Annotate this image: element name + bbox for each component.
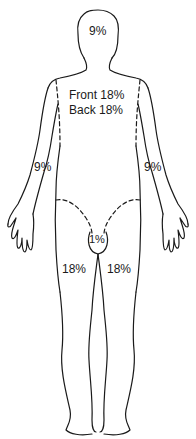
- left-arm-percent-label: 9%: [144, 161, 161, 174]
- right-leg-percent-label: 18%: [62, 263, 86, 276]
- trunk-back-percent-label: Back 18%: [69, 104, 123, 117]
- left-leg-percent-label: 18%: [107, 263, 131, 276]
- body-diagram: 9% Front 18% Back 18% 9% 9% 1% 18% 18%: [0, 0, 196, 439]
- right-arm-percent-label: 9%: [34, 161, 51, 174]
- head-percent-label: 9%: [89, 25, 106, 38]
- trunk-front-percent-label: Front 18%: [69, 89, 124, 102]
- perineum-percent-label: 1%: [89, 233, 105, 246]
- body-outline-icon: [0, 0, 196, 439]
